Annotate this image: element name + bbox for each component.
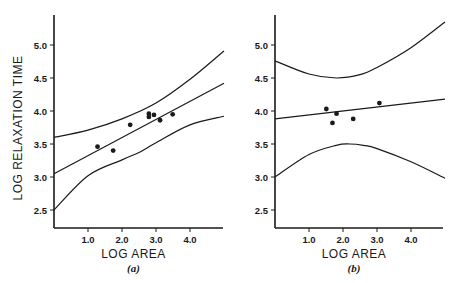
y-tick-label: 5.0 (255, 40, 268, 51)
x-tick-label: 1.0 (302, 234, 315, 245)
panel-a-label: (a) (127, 262, 140, 275)
data-point (146, 115, 151, 120)
data-point (351, 117, 356, 122)
y-tick-label: 2.5 (255, 205, 269, 216)
panel-a-points (95, 111, 175, 153)
y-tick-label: 3.0 (255, 172, 268, 183)
lower-confidence-band (275, 144, 445, 178)
data-point (324, 107, 329, 112)
data-point (152, 113, 157, 118)
panel-b: 2.53.03.54.04.55.01.02.03.04.0 LOG AREA … (255, 15, 445, 275)
data-point (95, 144, 100, 149)
upper-confidence-band (275, 22, 445, 78)
x-tick-label: 4.0 (404, 234, 417, 245)
lower-confidence-band (54, 116, 224, 210)
x-tick-label: 2.0 (336, 234, 349, 245)
data-point (330, 120, 335, 125)
y-tick-label: 3.5 (255, 139, 269, 150)
x-tick-label: 3.0 (370, 234, 383, 245)
figure: LOG RELAXATION TIME 2.53.03.54.04.55.01.… (0, 0, 457, 283)
x-tick-label: 4.0 (183, 234, 196, 245)
panel-b-points (324, 101, 382, 126)
data-point (170, 112, 175, 117)
panel-b-x-axis-title: LOG AREA (322, 247, 387, 261)
data-point (334, 111, 339, 116)
x-tick-label: 1.0 (81, 234, 94, 245)
panel-b-curves (275, 22, 445, 178)
data-point (377, 101, 382, 106)
chart-canvas: LOG RELAXATION TIME 2.53.03.54.04.55.01.… (0, 0, 457, 283)
panel-a: 2.53.03.54.04.55.01.02.03.04.0 LOG AREA … (34, 15, 224, 275)
panel-a-x-axis-title: LOG AREA (101, 247, 166, 261)
y-tick-label: 3.0 (34, 172, 47, 183)
panel-a-axes: 2.53.03.54.04.55.01.02.03.04.0 (34, 15, 223, 245)
y-tick-label: 4.5 (255, 73, 269, 84)
y-tick-label: 3.5 (34, 139, 48, 150)
data-point (111, 148, 116, 153)
y-axis-title: LOG RELAXATION TIME (11, 55, 25, 200)
upper-confidence-band (54, 51, 224, 137)
y-tick-label: 2.5 (34, 205, 48, 216)
y-tick-label: 4.0 (34, 106, 47, 117)
y-tick-label: 4.5 (34, 73, 48, 84)
panel-b-axes: 2.53.03.54.04.55.01.02.03.04.0 (255, 15, 443, 245)
data-point (158, 118, 163, 123)
regression-line (275, 99, 445, 119)
panel-b-label: (b) (348, 262, 361, 275)
panel-a-curves (54, 51, 224, 210)
x-tick-label: 2.0 (115, 234, 128, 245)
x-tick-label: 3.0 (149, 234, 162, 245)
regression-line (54, 83, 224, 173)
data-point (128, 122, 133, 127)
y-tick-label: 5.0 (34, 40, 47, 51)
y-tick-label: 4.0 (255, 106, 268, 117)
